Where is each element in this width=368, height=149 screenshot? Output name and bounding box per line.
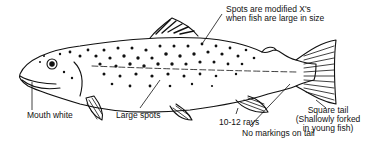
label-spots-x: Spots are modified X's when fish are lar… xyxy=(226,5,324,23)
trout-diagram: Spots are modified X's when fish are lar… xyxy=(0,0,368,149)
label-mouth-white: Mouth white xyxy=(27,111,73,120)
gill-cover xyxy=(74,62,82,96)
label-spots-x-line2: when fish are large in size xyxy=(226,14,324,23)
leader-large-spots xyxy=(140,80,160,108)
leader-rays xyxy=(236,108,238,114)
body-spots xyxy=(39,43,255,88)
lateral-line xyxy=(92,66,296,72)
jaw xyxy=(20,76,60,89)
label-no-markings: No markings on tail xyxy=(242,129,315,138)
pelvic-fin xyxy=(170,104,192,120)
label-rays: 10-12 rays xyxy=(219,118,259,127)
label-large-spots: Large spots xyxy=(116,111,160,120)
